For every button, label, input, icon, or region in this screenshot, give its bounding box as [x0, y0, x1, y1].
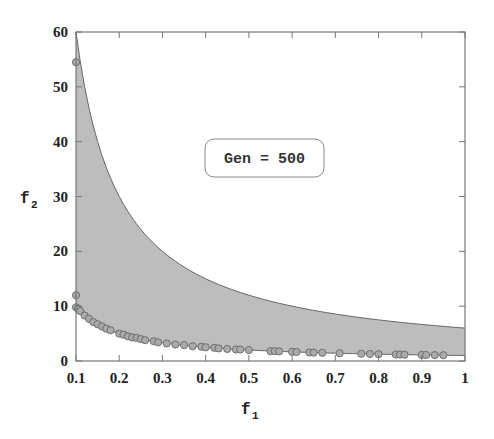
x-tick-label: 0.1	[67, 370, 86, 386]
data-point	[401, 351, 408, 358]
y-axis-label: f 2	[20, 190, 38, 211]
svg-text:Gen = 500: Gen = 500	[224, 151, 305, 168]
svg-text:f: f	[20, 190, 30, 208]
x-tick-label: 0.2	[110, 370, 129, 386]
y-tick-label: 60	[53, 24, 68, 40]
data-point	[440, 352, 447, 359]
data-point	[366, 350, 373, 357]
data-point	[423, 351, 430, 358]
feasible-region	[76, 32, 465, 356]
x-tick-label: 0.9	[412, 370, 431, 386]
y-tick-label: 50	[53, 79, 68, 95]
pareto-chart: 0.10.20.30.40.50.60.70.80.91 01020304050…	[0, 0, 494, 439]
y-tick-label: 20	[53, 243, 68, 259]
data-point	[155, 339, 162, 346]
generation-annotation: Gen = 500	[205, 139, 324, 177]
data-point	[107, 327, 114, 334]
data-point	[237, 346, 244, 353]
data-point	[310, 349, 317, 356]
data-point	[431, 351, 438, 358]
data-point	[276, 348, 283, 355]
data-point	[336, 350, 343, 357]
x-tick-label: 0.7	[326, 370, 345, 386]
data-point	[293, 348, 300, 355]
data-point	[358, 350, 365, 357]
data-point	[142, 337, 149, 344]
x-tick-label: 0.5	[240, 370, 259, 386]
data-point	[172, 341, 179, 348]
data-point	[202, 344, 209, 351]
data-point	[163, 340, 170, 347]
data-point	[180, 341, 187, 348]
x-tick-label: 0.6	[283, 370, 302, 386]
y-tick-label: 0	[61, 353, 69, 369]
data-point	[224, 345, 231, 352]
data-point	[189, 343, 196, 350]
data-point	[245, 346, 252, 353]
svg-text:1: 1	[252, 410, 259, 422]
y-tick-label: 30	[53, 189, 68, 205]
x-tick-label: 0.3	[153, 370, 172, 386]
x-tick-label: 0.8	[369, 370, 388, 386]
x-tick-label: 0.4	[196, 370, 215, 386]
x-tick-label: 1	[461, 370, 469, 386]
svg-text:f: f	[241, 401, 251, 419]
y-tick-label: 10	[53, 298, 68, 314]
x-axis-label: f 1	[241, 401, 259, 422]
data-point	[215, 345, 222, 352]
data-point	[319, 349, 326, 356]
svg-text:2: 2	[31, 199, 38, 211]
y-tick-label: 40	[53, 134, 68, 150]
